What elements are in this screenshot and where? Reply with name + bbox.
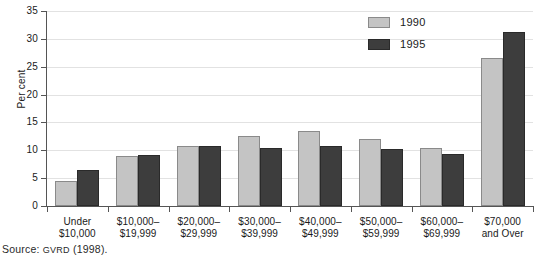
x-axis-tick-mark [229,207,230,212]
y-axis-tick-mark [41,178,46,179]
gridline [47,95,533,96]
x-axis-category-label: $70,000 and Over [468,216,537,239]
y-axis-tick-mark [41,95,46,96]
bar-1995-4 [260,148,282,206]
y-axis-tick-label: 0 [12,201,38,211]
source-suffix: (1998). [70,243,108,255]
x-axis-category-label: $40,000– $49,999 [286,216,355,239]
x-axis-category-label: $20,000– $29,999 [165,216,234,239]
y-axis-tick-mark [41,39,46,40]
bar-1995-2 [138,155,160,206]
bar-1990-4 [238,136,260,206]
bar-1990-5 [298,131,320,206]
plot-area [47,11,533,206]
legend-item: 1995 [368,37,458,59]
x-axis-tick-mark [351,207,352,212]
y-axis-tick-mark [41,67,46,68]
bar-1995-1 [77,170,99,206]
legend-label-1995: 1995 [400,37,426,51]
y-axis-tick-label: 5 [12,173,38,183]
y-axis-tick-mark [41,206,46,207]
bar-1995-3 [199,146,221,206]
y-axis-tick-mark [41,122,46,123]
gridline [47,122,533,123]
y-axis-tick-label: 35 [12,6,38,16]
gridline [47,150,533,151]
legend-label-1990: 1990 [400,15,426,29]
gridline [47,11,533,12]
y-axis-tick-mark [41,150,46,151]
gridline [47,67,533,68]
y-axis-title: Per cent [17,59,27,119]
x-axis-tick-mark [108,207,109,212]
x-axis-tick-mark [169,207,170,212]
legend-item: 1990 [368,15,458,37]
bar-1995-7 [442,154,464,206]
y-axis-tick-labels: 05101520253035 [7,0,38,262]
legend-swatch-1990-icon [368,17,390,28]
bar-1990-2 [116,156,138,206]
x-axis-tick-mark [290,207,291,212]
bar-1990-8 [481,58,503,206]
bar-1990-6 [359,139,381,206]
source-caption: Source: GVRD (1998). [2,243,108,256]
x-axis-tick-mark [47,207,48,212]
bar-1995-5 [320,146,342,206]
y-axis-tick-mark [41,11,46,12]
bar-1995-6 [381,149,403,206]
y-axis-tick-label: 10 [12,145,38,155]
legend: 1990 1995 [368,15,458,59]
gridline [47,39,533,40]
x-axis-category-label: $50,000– $59,999 [347,216,416,239]
x-axis-category-label: $60,000– $69,999 [408,216,477,239]
x-axis-tick-mark [533,207,534,212]
bar-1995-8 [503,32,525,206]
legend-swatch-1995-icon [368,39,390,50]
bar-1990-3 [177,146,199,206]
x-axis-category-label: $30,000– $39,999 [225,216,294,239]
source-agency: GVRD [43,245,70,255]
x-axis-tick-mark [412,207,413,212]
bar-1990-1 [55,181,77,206]
bar-1990-7 [420,148,442,207]
x-axis-tick-mark [472,207,473,212]
source-prefix: Source: [2,243,43,255]
x-axis-category-label: $10,000– $19,999 [104,216,173,239]
income-distribution-bar-chart: 05101520253035 Per cent 1990 1995 Source… [0,0,550,262]
x-axis-category-label: Under $10,000 [43,216,112,239]
y-axis-tick-label: 30 [12,34,38,44]
